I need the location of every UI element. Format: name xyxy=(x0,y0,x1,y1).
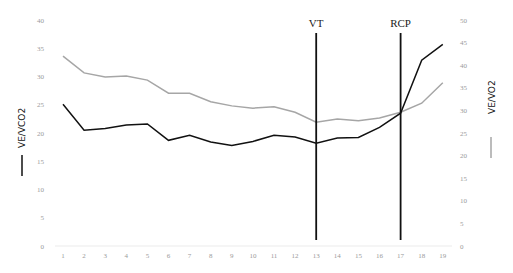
x-tick-label: 18 xyxy=(418,252,426,260)
x-tick-label: 16 xyxy=(376,252,384,260)
right-tick-label: 15 xyxy=(460,175,468,183)
x-tick-label: 1 xyxy=(61,252,65,260)
right-tick-label: 45 xyxy=(460,39,468,47)
x-tick-label: 4 xyxy=(125,252,129,260)
right-tick-label: 35 xyxy=(460,84,468,92)
right-tick-label: 20 xyxy=(460,152,468,160)
right-tick-label: 50 xyxy=(460,17,468,25)
left-tick-label: 10 xyxy=(37,186,45,194)
x-tick-label: 9 xyxy=(230,252,234,260)
right-tick-label: 40 xyxy=(460,62,468,70)
x-tick-label: 10 xyxy=(249,252,257,260)
left-tick-label: 0 xyxy=(41,243,45,251)
x-tick-label: 17 xyxy=(397,252,405,260)
x-tick-label: 11 xyxy=(271,252,278,260)
x-tick-label: 12 xyxy=(292,252,300,260)
right-tick-label: 25 xyxy=(460,130,468,138)
x-tick-label: 19 xyxy=(439,252,447,260)
left-tick-label: 20 xyxy=(37,130,45,138)
right-tick-label: 30 xyxy=(460,107,468,115)
x-tick-label: 3 xyxy=(103,252,107,260)
left-tick-label: 35 xyxy=(37,45,45,53)
right-axis-title: VE/VO2 xyxy=(487,80,497,114)
left-tick-label: 25 xyxy=(37,101,45,109)
ve-vco2-line xyxy=(63,44,443,145)
left-axis-legend: VE/VCO2 xyxy=(17,108,27,176)
threshold-markers: VTRCP xyxy=(309,17,411,240)
left-tick-label: 5 xyxy=(41,214,45,222)
left-tick-label: 40 xyxy=(37,17,45,25)
right-tick-label: 5 xyxy=(460,220,464,228)
x-tick-label: 2 xyxy=(82,252,86,260)
x-tick-label: 6 xyxy=(167,252,171,260)
marker-label-vt: VT xyxy=(309,17,324,29)
x-tick-label: 8 xyxy=(209,252,213,260)
right-axis-legend: VE/VO2 xyxy=(487,80,497,158)
left-y-axis-ticks: 0510152025303540 xyxy=(37,17,45,251)
left-tick-label: 15 xyxy=(37,158,45,166)
x-tick-label: 14 xyxy=(334,252,342,260)
x-tick-label: 7 xyxy=(188,252,192,260)
x-tick-label: 5 xyxy=(146,252,150,260)
chart: 0510152025303540 05101520253035404550 12… xyxy=(0,0,513,273)
x-tick-label: 13 xyxy=(313,252,321,260)
right-tick-label: 0 xyxy=(460,243,464,251)
right-y-axis-ticks: 05101520253035404550 xyxy=(460,17,468,251)
right-tick-label: 10 xyxy=(460,197,468,205)
ve-vo2-line xyxy=(63,56,443,122)
left-axis-title: VE/VCO2 xyxy=(17,108,27,148)
left-tick-label: 30 xyxy=(37,73,45,81)
marker-label-rcp: RCP xyxy=(390,17,411,29)
x-tick-label: 15 xyxy=(355,252,363,260)
x-axis-ticks: 12345678910111213141516171819 xyxy=(61,252,447,260)
